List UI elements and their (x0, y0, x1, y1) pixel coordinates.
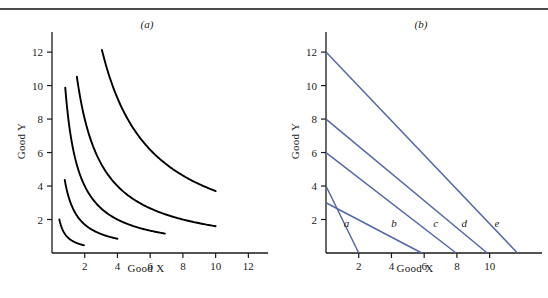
economics-figure: (a) Good Y Good X 2468101224681012 (b) G… (0, 10, 548, 298)
budget-line (326, 186, 359, 253)
y-tick-label: 6 (38, 147, 44, 159)
indifference-curve (102, 50, 216, 191)
y-tick-label: 8 (312, 113, 318, 125)
x-tick-label: 8 (180, 260, 186, 272)
y-tick-label: 2 (312, 214, 318, 226)
x-tick-label: 6 (147, 260, 153, 272)
y-tick-label: 4 (312, 180, 318, 192)
x-tick-label: 6 (421, 260, 427, 272)
panel-b-plot-area: 24681024681012abcde (274, 10, 548, 298)
panel-b-budget-lines: (b) Good Y Good X 24681024681012abcde (274, 10, 548, 298)
x-tick-label: 12 (243, 260, 254, 272)
budget-line (326, 52, 517, 253)
y-tick-label: 10 (306, 80, 318, 92)
y-tick-label: 8 (38, 113, 44, 125)
x-tick-label: 2 (82, 260, 88, 272)
budget-line (326, 119, 487, 253)
y-tick-label: 2 (38, 214, 44, 226)
budget-line-label: e (495, 217, 500, 229)
panel-a-indifference-curves: (a) Good Y Good X 2468101224681012 (0, 10, 274, 298)
x-tick-label: 10 (484, 260, 496, 272)
y-tick-label: 10 (32, 80, 44, 92)
y-tick-label: 12 (32, 46, 43, 58)
panel-a-plot-area: 2468101224681012 (0, 10, 274, 298)
y-tick-label: 12 (306, 46, 317, 58)
y-tick-label: 4 (38, 180, 44, 192)
budget-line-label: d (462, 217, 468, 229)
indifference-curve (65, 180, 118, 239)
x-tick-label: 10 (210, 260, 222, 272)
x-tick-label: 4 (389, 260, 395, 272)
budget-line-label: c (433, 217, 438, 229)
budget-line (326, 203, 422, 253)
budget-line-label: a (344, 217, 350, 229)
x-tick-label: 8 (454, 260, 460, 272)
x-tick-label: 4 (115, 260, 121, 272)
budget-line-label: b (391, 217, 397, 229)
x-tick-label: 2 (356, 260, 362, 272)
indifference-curve (59, 220, 84, 246)
indifference-curve (65, 88, 165, 234)
y-tick-label: 6 (312, 147, 318, 159)
